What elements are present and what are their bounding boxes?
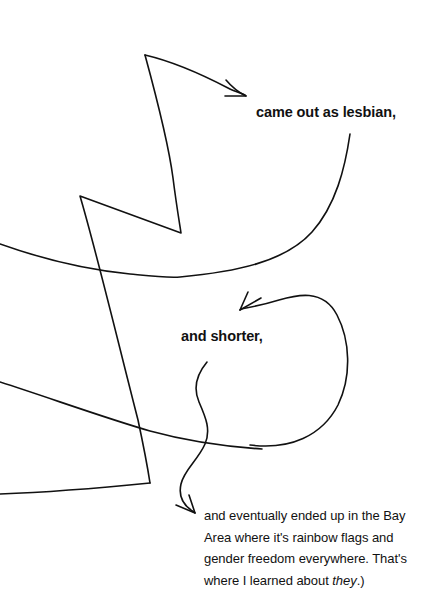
wavy-arrow-head-barb2 xyxy=(189,495,195,513)
sketch-page: came out as lesbian, and shorter, and ev… xyxy=(0,0,440,600)
annotation-paragraph-bay-area: and eventually ended up in the Bay Area … xyxy=(204,505,410,591)
paragraph-line-4-suffix: .) xyxy=(357,573,365,588)
lower-left-diagonal xyxy=(0,382,262,449)
paragraph-line-2: Area where it's rainbow flags and xyxy=(204,530,393,545)
wavy-arrow-shaft xyxy=(180,362,207,512)
long-horizontal-curve xyxy=(0,134,350,277)
paragraph-line-4-italic: they xyxy=(332,573,356,588)
big-loop-arrow-shaft xyxy=(241,295,348,446)
wavy-arrow-head-barb1 xyxy=(176,505,195,513)
paragraph-line-3: gender freedom everywhere. That's xyxy=(204,551,407,566)
annotation-label-lesbian: came out as lesbian, xyxy=(256,104,396,121)
arrow-to-lesbian-shaft xyxy=(145,55,245,95)
paragraph-line-1: and eventually ended up in the Bay xyxy=(204,508,405,523)
big-loop-arrow-head-barb1 xyxy=(240,298,261,310)
long-descending-zigzag xyxy=(80,55,181,483)
paragraph-line-4-prefix: where I learned about xyxy=(204,573,332,588)
arrow-to-lesbian-head xyxy=(226,80,246,96)
annotation-label-shorter: and shorter, xyxy=(181,328,263,345)
big-loop-arrow-head-barb2 xyxy=(240,292,248,310)
lower-left-base xyxy=(0,483,150,494)
